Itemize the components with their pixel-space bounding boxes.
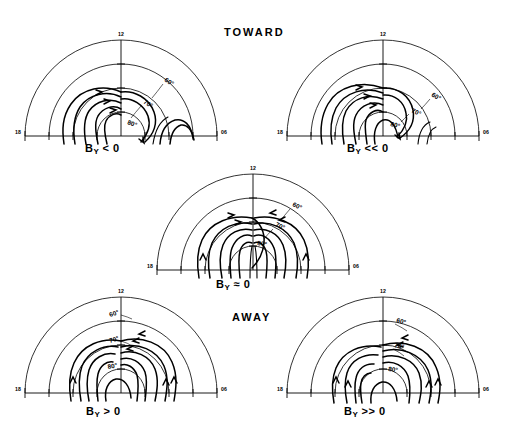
caption-symbol: B	[85, 142, 94, 154]
mlt-label-noon: 12	[118, 31, 124, 37]
mlt-label-dawn: 06	[483, 386, 489, 392]
mlt-label-noon: 12	[118, 288, 124, 294]
caption-subscript: Y	[95, 410, 100, 419]
caption-symbol: B	[347, 142, 356, 154]
mlt-label-dusk: 18	[15, 386, 21, 392]
panel-caption-toward-by-neg: BY < 0	[85, 142, 120, 156]
caption-operator: < 0	[103, 142, 120, 154]
panel-away-by-pos: 12 18 06 60° 70° 80°	[8, 285, 234, 410]
panel-toward-by-strong-neg: 12 18 06 60° 70° 80°	[270, 20, 496, 145]
panel-caption-away-by-strong-pos: BY >> 0	[344, 405, 386, 419]
caption-operator: > 0	[104, 405, 121, 417]
mlt-label-noon: 12	[250, 165, 256, 171]
caption-subscript: Y	[94, 147, 99, 156]
lat-label-70: 70°	[108, 334, 120, 344]
mlt-label-dusk: 18	[277, 129, 283, 135]
caption-subscript: Y	[353, 410, 358, 419]
mlt-label-dusk: 18	[277, 386, 283, 392]
mlt-label-noon: 12	[380, 31, 386, 37]
panel-caption-toward-by-strong-neg: BY << 0	[347, 142, 389, 156]
caption-operator: ≈ 0	[234, 278, 251, 290]
lat-label-60: 60°	[292, 201, 304, 212]
lat-label-80: 80°	[127, 118, 139, 128]
dial-grid	[287, 297, 479, 398]
panel-away-by-strong-pos: 12 18 06 60° 70° 80°	[270, 285, 496, 410]
mlt-label-noon: 12	[380, 288, 386, 294]
convection-figure: TOWARD AWAY	[0, 0, 508, 433]
mlt-label-dawn: 06	[221, 129, 227, 135]
panel-toward-by-neg: 12 18 06 60° 70° 80°	[8, 20, 234, 145]
mlt-label-dawn: 06	[353, 263, 359, 269]
mlt-label-dusk: 18	[147, 263, 153, 269]
caption-subscript: Y	[356, 147, 361, 156]
dial-grid	[157, 174, 349, 275]
lat-label-60: 60°	[108, 308, 120, 318]
row-title-away: AWAY	[232, 311, 271, 323]
mlt-label-dawn: 06	[483, 129, 489, 135]
panel-caption-away-by-pos: BY > 0	[86, 405, 121, 419]
caption-symbol: B	[86, 405, 95, 417]
caption-symbol: B	[344, 405, 353, 417]
lat-label-60: 60°	[163, 76, 175, 87]
mlt-label-dusk: 18	[15, 129, 21, 135]
dial-grid	[287, 40, 479, 141]
mlt-label-dawn: 06	[221, 386, 227, 392]
caption-operator: >> 0	[362, 405, 386, 417]
caption-operator: << 0	[365, 142, 389, 154]
lat-label-80: 80°	[388, 365, 399, 373]
panel-by-approx-zero: 12 18 06 60° 70° 80°	[140, 160, 366, 285]
